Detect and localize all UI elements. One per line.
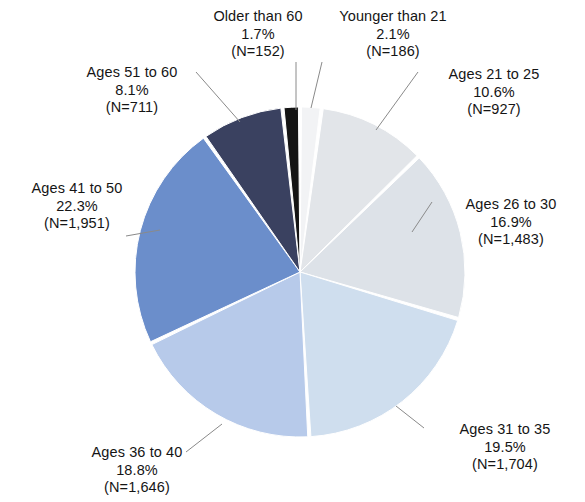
slice-label-older-than-60: Older than 60 1.7% (N=152) [183, 8, 333, 61]
slice-label-name: Ages 21 to 25 [424, 66, 564, 84]
pie-slice-group [135, 107, 465, 437]
slice-label-name: Ages 26 to 30 [438, 196, 584, 214]
slice-label-count: (N=711) [58, 99, 206, 117]
slice-label-ages-21-to-25: Ages 21 to 25 10.6% (N=927) [424, 66, 564, 119]
leader-ages-31-35 [396, 406, 424, 428]
slice-label-ages-51-to-60: Ages 51 to 60 8.1% (N=711) [58, 64, 206, 117]
slice-label-percent: 10.6% [424, 84, 564, 102]
slice-label-ages-36-to-40: Ages 36 to 40 18.8% (N=1,646) [62, 444, 212, 497]
slice-label-name: Older than 60 [183, 8, 333, 26]
slice-label-name: Ages 51 to 60 [58, 64, 206, 82]
slice-label-percent: 22.3% [2, 198, 152, 216]
slice-label-name: Ages 41 to 50 [2, 180, 152, 198]
slice-label-name: Ages 31 to 35 [430, 421, 580, 439]
slice-label-ages-41-to-50: Ages 41 to 50 22.3% (N=1,951) [2, 180, 152, 233]
slice-label-name: Ages 36 to 40 [62, 444, 212, 462]
slice-label-younger-than-21: Younger than 21 2.1% (N=186) [318, 8, 468, 61]
pie-chart: Older than 60 1.7% (N=152) Younger than … [0, 0, 585, 502]
slice-label-percent: 1.7% [183, 26, 333, 44]
slice-label-name: Younger than 21 [318, 8, 468, 26]
slice-label-percent: 8.1% [58, 82, 206, 100]
slice-label-count: (N=186) [318, 43, 468, 61]
slice-label-count: (N=927) [424, 101, 564, 119]
slice-label-count: (N=152) [183, 43, 333, 61]
slice-label-percent: 16.9% [438, 214, 584, 232]
slice-label-count: (N=1,483) [438, 231, 584, 249]
leader-younger-than-21 [311, 62, 322, 108]
slice-label-percent: 18.8% [62, 462, 212, 480]
slice-label-count: (N=1,951) [2, 215, 152, 233]
slice-label-count: (N=1,704) [430, 456, 580, 474]
slice-label-ages-26-to-30: Ages 26 to 30 16.9% (N=1,483) [438, 196, 584, 249]
slice-label-ages-31-to-35: Ages 31 to 35 19.5% (N=1,704) [430, 421, 580, 474]
slice-label-percent: 19.5% [430, 439, 580, 457]
slice-label-count: (N=1,646) [62, 479, 212, 497]
slice-label-percent: 2.1% [318, 26, 468, 44]
leader-ages-21-25 [376, 72, 418, 130]
